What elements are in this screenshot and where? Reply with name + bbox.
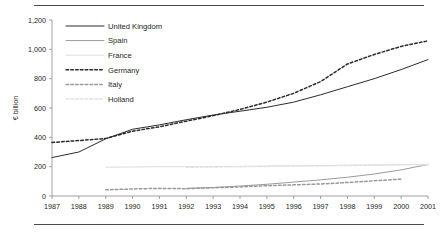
top-divider-rule [34, 5, 424, 6]
x-tick-label: 1994 [232, 202, 248, 211]
legend-label-holland: Holland [108, 95, 134, 104]
x-tick-label: 2001 [420, 202, 436, 211]
legend-label-united-kingdom: United Kingdom [108, 22, 162, 31]
chart-plot-area: 02004006008001,0001,200€ billion19871988… [0, 10, 442, 222]
x-tick-label: 1997 [313, 202, 329, 211]
line-chart-svg: 02004006008001,0001,200€ billion19871988… [0, 10, 442, 222]
legend-label-spain: Spain [108, 36, 127, 45]
legend-label-germany: Germany [108, 66, 139, 75]
x-tick-label: 1991 [151, 202, 167, 211]
y-tick-label: 1,200 [28, 16, 46, 25]
y-axis-title: € billion [11, 96, 20, 120]
x-tick-label: 1999 [366, 202, 382, 211]
y-tick-label: 600 [34, 104, 46, 113]
x-tick-label: 1996 [286, 202, 302, 211]
x-tick-label: 1988 [71, 202, 87, 211]
chart-figure: 02004006008001,0001,200€ billion19871988… [0, 0, 442, 236]
x-tick-label: 1990 [125, 202, 141, 211]
y-tick-label: 800 [34, 74, 46, 83]
series-line-italy [106, 179, 401, 190]
x-tick-label: 1992 [178, 202, 194, 211]
bottom-divider-rule [34, 224, 424, 225]
x-tick-label: 1995 [259, 202, 275, 211]
legend-label-italy: Italy [108, 80, 122, 89]
legend-label-france: France [108, 51, 132, 60]
x-tick-label: 1987 [44, 202, 60, 211]
y-tick-label: 200 [34, 162, 46, 171]
y-tick-label: 1,000 [28, 45, 46, 54]
x-tick-label: 1989 [98, 202, 114, 211]
x-tick-label: 1998 [339, 202, 355, 211]
y-tick-label: 0 [42, 192, 46, 201]
x-tick-label: 1993 [205, 202, 221, 211]
x-tick-label: 2000 [393, 202, 409, 211]
y-tick-label: 400 [34, 133, 46, 142]
